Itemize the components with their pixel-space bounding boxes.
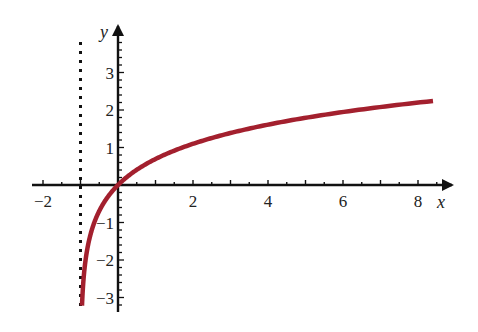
y-tick-label: −3	[96, 289, 114, 308]
y-tick-label: 1	[106, 139, 115, 158]
x-tick-label: 4	[264, 192, 273, 211]
y-tick-label: 3	[106, 64, 115, 83]
x-tick-label: 2	[189, 192, 198, 211]
y-tick-label: 2	[106, 101, 115, 120]
y-axis-label: y	[98, 22, 108, 42]
x-tick-label: 8	[414, 192, 423, 211]
x-tick-label: 6	[339, 192, 348, 211]
x-tick-label: −2	[34, 192, 52, 211]
x-axis-label: x	[436, 192, 445, 212]
chart: −22468−3−2−1123 x y	[0, 0, 478, 332]
y-tick-label: −2	[96, 251, 114, 270]
function-curve	[82, 101, 433, 306]
